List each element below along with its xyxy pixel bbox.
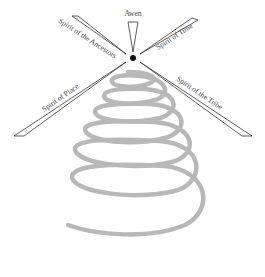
awen-label: Awen: [124, 9, 141, 18]
awen-diagram: Awen Spirit of the Ancestors Spirit of T…: [0, 0, 265, 277]
ancestors-label: Spirit of the Ancestors: [57, 16, 118, 60]
awen-center-dot: [130, 55, 136, 61]
awen-arrow: [128, 22, 138, 52]
time-label: Spirit of Time: [154, 21, 195, 52]
diagram-canvas: Awen Spirit of the Ancestors Spirit of T…: [0, 0, 265, 277]
spiral-graphic: [68, 72, 203, 234]
